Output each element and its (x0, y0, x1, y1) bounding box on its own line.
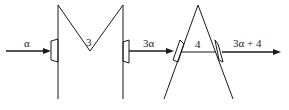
element-a-label: 4 (195, 38, 201, 50)
output-arrow (222, 49, 281, 55)
element-m-label: 3 (86, 36, 92, 48)
diagram: α 3 3α 4 3α + 4 (0, 0, 289, 110)
output-label: 3α + 4 (233, 37, 262, 49)
right-wedge-icon (123, 40, 129, 63)
a-right-wedge-icon (215, 40, 223, 62)
element-m (51, 5, 129, 99)
middle-label: 3α (143, 37, 155, 49)
left-wedge-icon (51, 39, 58, 62)
input-label: α (24, 37, 30, 49)
